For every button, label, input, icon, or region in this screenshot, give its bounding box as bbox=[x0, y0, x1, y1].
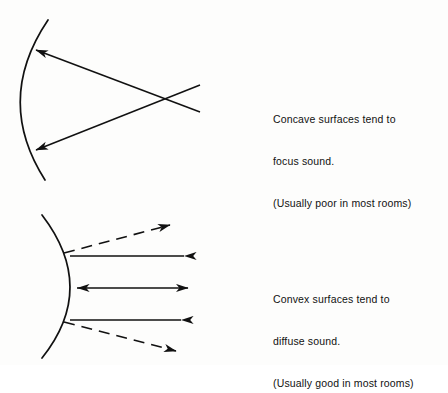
convex-caption-line-1: Convex surfaces tend to bbox=[273, 292, 414, 306]
convex-dashed-ray-top bbox=[64, 225, 170, 253]
concave-surface-arc bbox=[20, 20, 48, 180]
convex-surface-arc bbox=[42, 215, 70, 358]
convex-caption: Convex surfaces tend to diffuse sound. (… bbox=[273, 264, 414, 393]
concave-upper-ray bbox=[36, 50, 200, 112]
concave-lower-ray bbox=[36, 85, 200, 150]
concave-panel bbox=[20, 20, 200, 180]
convex-dashed-ray-bottom bbox=[64, 322, 176, 351]
concave-caption-line-1: Concave surfaces tend to bbox=[273, 112, 411, 126]
concave-caption-line-2: focus sound. bbox=[273, 154, 411, 168]
concave-caption: Concave surfaces tend to focus sound. (U… bbox=[273, 84, 411, 224]
convex-caption-line-3: (Usually good in most rooms) bbox=[273, 376, 414, 390]
convex-caption-line-2: diffuse sound. bbox=[273, 334, 414, 348]
concave-caption-line-3: (Usually poor in most rooms) bbox=[273, 196, 411, 210]
convex-panel bbox=[42, 215, 188, 358]
